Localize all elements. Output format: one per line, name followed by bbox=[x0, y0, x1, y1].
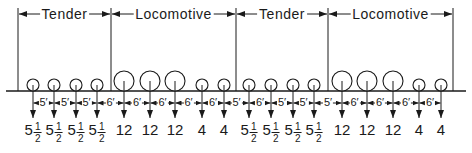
section-label-locomotive: Locomotive bbox=[350, 5, 431, 23]
load-whole: 12 bbox=[167, 121, 184, 139]
load-fraction: 12 bbox=[294, 122, 302, 144]
load-fraction: 12 bbox=[77, 122, 85, 144]
fraction-denominator: 2 bbox=[99, 133, 105, 144]
load-whole: 12 bbox=[385, 121, 402, 139]
fraction-numerator: 1 bbox=[34, 122, 42, 133]
fraction-numerator: 1 bbox=[250, 122, 258, 133]
axle-spacing-label: 5′ bbox=[298, 96, 308, 109]
axle-spacing-label: 5′ bbox=[60, 96, 70, 109]
axle-load-value: 12 bbox=[385, 121, 402, 139]
fraction-denominator: 2 bbox=[35, 133, 41, 144]
axle-spacing-label: 6′ bbox=[105, 96, 115, 109]
axle-load-value: 512 bbox=[68, 121, 85, 144]
load-whole: 5 bbox=[263, 121, 271, 139]
load-fraction: 12 bbox=[98, 122, 106, 144]
fraction-denominator: 2 bbox=[78, 133, 84, 144]
fraction-denominator: 2 bbox=[273, 133, 279, 144]
axle-load-value: 512 bbox=[263, 121, 280, 144]
axle-spacing-label: 6′ bbox=[425, 96, 435, 109]
fraction-denominator: 2 bbox=[56, 133, 62, 144]
load-whole: 12 bbox=[334, 121, 351, 139]
axle-load-value: 512 bbox=[285, 121, 302, 144]
load-whole: 4 bbox=[198, 121, 206, 139]
axle-spacing-label: 6′ bbox=[401, 96, 411, 109]
load-whole: 4 bbox=[220, 121, 228, 139]
axle-load-value: 12 bbox=[359, 121, 376, 139]
axle-load-diagram: TenderLocomotiveTenderLocomotive51251251… bbox=[0, 0, 472, 153]
fraction-numerator: 1 bbox=[77, 122, 85, 133]
axle-spacing-label: 6′ bbox=[255, 96, 265, 109]
axle-spacing-label: 5′ bbox=[277, 96, 287, 109]
load-whole: 5 bbox=[25, 121, 33, 139]
load-whole: 5 bbox=[241, 121, 249, 139]
axle-load-value: 4 bbox=[220, 121, 228, 139]
axle-load-value: 12 bbox=[116, 121, 133, 139]
load-whole: 5 bbox=[68, 121, 76, 139]
fraction-numerator: 1 bbox=[98, 122, 106, 133]
axle-load-value: 512 bbox=[306, 121, 323, 144]
fraction-denominator: 2 bbox=[316, 133, 322, 144]
fraction-numerator: 1 bbox=[55, 122, 63, 133]
axle-load-value: 4 bbox=[198, 121, 206, 139]
load-whole: 12 bbox=[142, 121, 159, 139]
load-fraction: 12 bbox=[250, 122, 258, 144]
section-label-locomotive: Locomotive bbox=[133, 5, 214, 23]
load-whole: 5 bbox=[89, 121, 97, 139]
axle-load-value: 512 bbox=[241, 121, 258, 144]
axle-load-value: 4 bbox=[415, 121, 423, 139]
axle-spacing-label: 5′ bbox=[323, 96, 333, 109]
axle-spacing-label: 5′ bbox=[81, 96, 91, 109]
axle-load-value: 512 bbox=[89, 121, 106, 144]
fraction-numerator: 1 bbox=[294, 122, 302, 133]
load-whole: 4 bbox=[415, 121, 423, 139]
load-whole: 4 bbox=[437, 121, 445, 139]
axle-spacing-label: 5′ bbox=[231, 96, 241, 109]
fraction-denominator: 2 bbox=[251, 133, 257, 144]
load-whole: 12 bbox=[359, 121, 376, 139]
section-label-tender: Tender bbox=[40, 5, 90, 23]
load-fraction: 12 bbox=[315, 122, 323, 144]
axle-spacing-label: 6′ bbox=[208, 96, 218, 109]
load-fraction: 12 bbox=[34, 122, 42, 144]
fraction-numerator: 1 bbox=[315, 122, 323, 133]
fraction-numerator: 1 bbox=[272, 122, 280, 133]
load-whole: 5 bbox=[306, 121, 314, 139]
axle-load-value: 4 bbox=[437, 121, 445, 139]
load-fraction: 12 bbox=[272, 122, 280, 144]
axle-spacing-label: 6′ bbox=[349, 96, 359, 109]
axle-load-value: 12 bbox=[167, 121, 184, 139]
axle-load-value: 12 bbox=[142, 121, 159, 139]
section-label-tender: Tender bbox=[257, 5, 307, 23]
axle-load-value: 512 bbox=[25, 121, 42, 144]
axle-spacing-label: 6′ bbox=[157, 96, 167, 109]
axle-spacing-label: 5′ bbox=[38, 96, 48, 109]
axle-spacing-label: 6′ bbox=[183, 96, 193, 109]
axle-spacing-label: 6′ bbox=[132, 96, 142, 109]
axle-spacing-label: 6′ bbox=[375, 96, 385, 109]
load-whole: 5 bbox=[46, 121, 54, 139]
load-fraction: 12 bbox=[55, 122, 63, 144]
load-whole: 5 bbox=[285, 121, 293, 139]
fraction-denominator: 2 bbox=[295, 133, 301, 144]
axle-load-value: 512 bbox=[46, 121, 63, 144]
axle-load-value: 12 bbox=[334, 121, 351, 139]
load-whole: 12 bbox=[116, 121, 133, 139]
